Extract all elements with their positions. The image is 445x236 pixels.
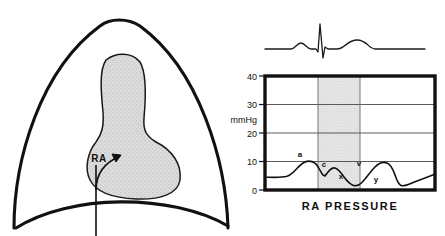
y-axis-unit-label: mmHg bbox=[231, 115, 258, 125]
ytick-label-10: 10 bbox=[247, 157, 257, 167]
figure-container: RA bbox=[0, 0, 445, 236]
ytick-label-40: 40 bbox=[247, 72, 257, 82]
wave-label-a: a bbox=[298, 150, 303, 159]
ytick-label-20: 20 bbox=[247, 129, 257, 139]
chart-title: RA PRESSURE bbox=[302, 200, 399, 212]
ytick-label-0: 0 bbox=[252, 186, 257, 196]
ytick-label-30: 30 bbox=[247, 100, 257, 110]
pressure-chart-svg: a c x v y 40 30 20 10 0 mmHg RA PRESSURE bbox=[225, 0, 445, 236]
chest-diagram-svg: RA bbox=[0, 0, 240, 236]
ra-pressure-chart-panel: a c x v y 40 30 20 10 0 mmHg RA PRESSURE bbox=[225, 0, 445, 236]
ecg-tracing bbox=[265, 24, 425, 58]
cardiac-silhouette bbox=[87, 54, 180, 199]
diaphragm-line bbox=[16, 202, 228, 228]
ra-chamber-label: RA bbox=[91, 153, 106, 164]
wave-label-c: c bbox=[322, 160, 327, 169]
wave-label-v: v bbox=[357, 159, 362, 168]
wave-label-x: x bbox=[339, 172, 344, 181]
chest-radiograph-schematic: RA bbox=[0, 0, 240, 236]
wave-label-y: y bbox=[374, 175, 379, 184]
